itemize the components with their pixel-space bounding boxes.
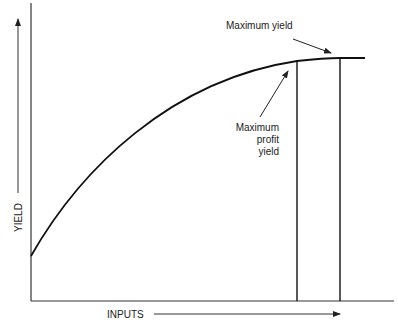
yield-diagram: YIELD INPUTS Maximum yield Maximum profi… <box>0 0 398 327</box>
max-profit-label-2: profit <box>257 134 279 145</box>
max-profit-label-3: yield <box>258 146 279 157</box>
max-yield-label: Maximum yield <box>226 20 293 31</box>
max-yield-arrow <box>293 39 331 53</box>
x-axis-label: INPUTS <box>107 309 144 320</box>
max-profit-arrow <box>260 71 288 117</box>
max-profit-label-1: Maximum <box>236 122 279 133</box>
yield-curve <box>31 58 365 256</box>
y-axis-label: YIELD <box>13 203 24 232</box>
